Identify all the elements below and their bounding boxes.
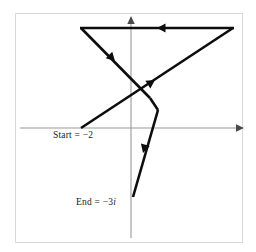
path-segment-5-down-left — [133, 110, 158, 197]
direction-arrow-icon-2 — [157, 23, 166, 32]
end-label-unit: i — [113, 197, 116, 207]
path-segment-3-down-right — [81, 28, 150, 98]
end-label-prefix: End = — [76, 197, 103, 207]
figure-root: Start = −2 End = −3i — [0, 0, 256, 252]
start-label: Start = −2 — [53, 130, 93, 140]
imaginary-axis-arrow-icon — [127, 16, 134, 24]
real-axis-arrow-icon — [236, 124, 244, 131]
end-label: End = −3i — [76, 197, 116, 207]
plot-canvas — [0, 0, 256, 252]
start-label-text: Start = −2 — [53, 130, 93, 140]
end-label-value: −3 — [103, 197, 114, 207]
path-segment-4-kink — [150, 98, 158, 110]
